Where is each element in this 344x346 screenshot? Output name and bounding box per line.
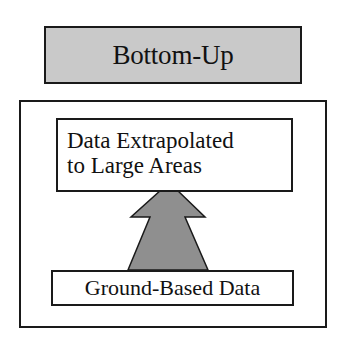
ground-based-data-box: Ground-Based Data xyxy=(51,270,294,306)
bottom-up-header-box: Bottom-Up xyxy=(44,26,302,84)
extrapolated-data-box: Data Extrapolated to Large Areas xyxy=(56,118,293,192)
top-box-line-1: Data Extrapolated xyxy=(67,128,291,153)
top-box-line-2: to Large Areas xyxy=(67,153,291,178)
header-title: Bottom-Up xyxy=(112,40,233,71)
bottom-box-label: Ground-Based Data xyxy=(85,275,260,301)
